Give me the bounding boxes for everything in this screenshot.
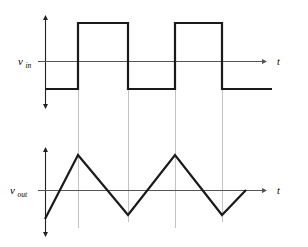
- output-axis-label-subscript: out: [18, 190, 29, 199]
- output-triangle-waveform: [45, 155, 246, 219]
- input-axis-label-main: v: [18, 55, 23, 67]
- output-panel: v out t: [10, 148, 280, 236]
- output-x-axis-label: t: [277, 185, 280, 196]
- waveform-figure: v in t v out t: [0, 0, 308, 247]
- alignment-guides: [79, 23, 223, 228]
- input-square-waveform: [45, 23, 272, 89]
- input-panel: v in t: [18, 16, 280, 108]
- input-x-axis-label: t: [277, 56, 280, 67]
- output-axis-label-main: v: [10, 184, 15, 196]
- input-axis-label-subscript: in: [26, 61, 32, 70]
